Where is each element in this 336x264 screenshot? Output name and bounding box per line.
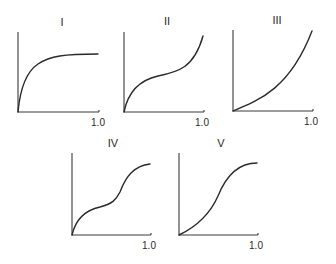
graphs-figure: I 1.0 II 1.0 III 1.0 IV 1.0 V 1.0: [0, 0, 336, 264]
graph-v-xtick: 1.0: [249, 240, 263, 251]
graph-iii-curve: [233, 31, 312, 111]
graph-iv-axes: [72, 153, 151, 235]
graph-v-title: V: [217, 137, 225, 149]
graph-iv-curve: [72, 164, 150, 235]
graph-ii-curve: [124, 36, 203, 112]
graph-iv: IV 1.0: [72, 137, 156, 251]
graph-v: V 1.0: [179, 137, 263, 251]
graph-i-xtick: 1.0: [91, 117, 105, 128]
graph-iii-axes: [233, 30, 313, 111]
graph-iii-title: III: [272, 14, 281, 26]
graph-i: I 1.0: [18, 16, 105, 128]
graph-ii-title: II: [164, 15, 170, 27]
graph-iv-title: IV: [108, 137, 119, 149]
graph-ii: II 1.0: [124, 15, 209, 128]
graph-i-curve: [18, 54, 98, 112]
graph-i-title: I: [60, 16, 63, 28]
graph-ii-xtick: 1.0: [195, 117, 209, 128]
graph-iv-xtick: 1.0: [142, 240, 156, 251]
graph-ii-axes: [124, 32, 204, 112]
graph-iii: III 1.0: [233, 14, 318, 127]
graph-v-curve: [179, 163, 257, 235]
graph-iii-xtick: 1.0: [304, 116, 318, 127]
